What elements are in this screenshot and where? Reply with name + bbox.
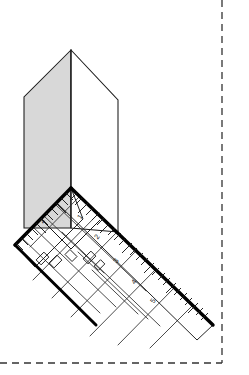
lattice-line-a [62, 232, 160, 326]
lattice-line-b [150, 306, 192, 348]
tick-label-right-5: 5 [148, 296, 158, 304]
ruler-inner-notch-lower [53, 231, 89, 249]
lattice-line-b [71, 250, 137, 317]
tick-minor [31, 228, 38, 235]
inner-rectangle-group [36, 249, 105, 270]
inner-rect [83, 251, 96, 264]
lattice-line-b [118, 288, 174, 345]
tick-major [122, 243, 132, 253]
prism-right-face [71, 50, 118, 232]
lattice-line-b [90, 269, 156, 336]
technical-drawing-canvas: 2 1 2 3 4 5 [0, 0, 249, 375]
tick-label-right-2: 2 [92, 232, 102, 240]
tick-label-right-3: 3 [111, 256, 121, 264]
inner-rect [36, 252, 49, 265]
lattice-line-a [22, 238, 100, 313]
lattice-line-b [52, 231, 118, 298]
tick-minor [26, 233, 33, 240]
tick-minor [21, 238, 28, 245]
figure-root: 2 1 2 3 4 5 [0, 0, 249, 375]
